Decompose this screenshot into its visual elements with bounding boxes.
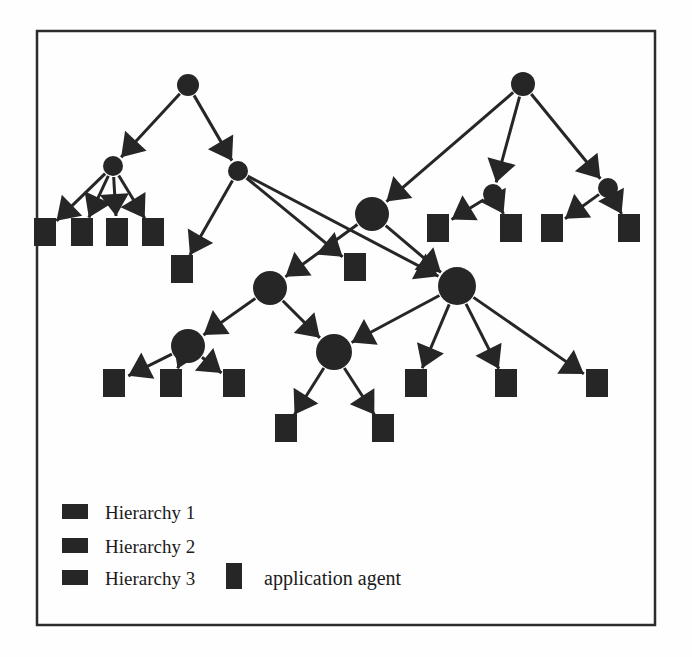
agent-hierarchy-diagram: Hierarchy 1 Hierarchy 2 Hierarchy 3 appl… (0, 0, 692, 657)
arrowhead (386, 176, 412, 202)
application-agent-node (344, 253, 366, 281)
edge (352, 295, 440, 344)
legend-swatch-agent (226, 563, 242, 589)
arrowhead (575, 153, 601, 179)
hierarchy-node-h3 (438, 267, 476, 305)
legend-swatch-h3 (62, 570, 88, 585)
legend-swatch-h2 (62, 538, 88, 553)
legend-label-h1: Hierarchy 1 (105, 502, 195, 523)
figure-root: Hierarchy 1 Hierarchy 2 Hierarchy 3 appl… (0, 0, 692, 657)
application-agent-node (372, 414, 394, 442)
edge (194, 95, 233, 160)
edge (344, 368, 374, 415)
arrowhead (350, 388, 375, 414)
application-agent-node (34, 218, 56, 246)
arrowhead (452, 195, 478, 220)
application-agent-node (586, 369, 608, 397)
application-agent-node (618, 214, 640, 242)
arrowhead (557, 350, 584, 374)
application-agent-node (495, 369, 517, 397)
arrowhead (204, 310, 230, 335)
edge (294, 368, 324, 414)
application-agent-node (142, 218, 164, 246)
legend: Hierarchy 1 Hierarchy 2 Hierarchy 3 appl… (62, 502, 402, 590)
application-agent-node (275, 414, 297, 442)
arrowhead (565, 194, 591, 219)
hierarchy-node-h1 (511, 72, 535, 96)
hierarchy-node-h2 (598, 178, 618, 198)
hierarchy-node-h3 (253, 271, 287, 305)
edge (531, 94, 600, 179)
application-agent-node (541, 214, 563, 242)
edge (283, 301, 320, 338)
legend-label-h3: Hierarchy 3 (105, 568, 195, 589)
nodes-layer (34, 72, 640, 442)
edge (452, 195, 484, 220)
legend-label-h2: Hierarchy 2 (105, 536, 195, 557)
arrowhead (285, 252, 311, 277)
application-agent-node (160, 369, 182, 397)
application-agent-node (405, 369, 427, 397)
edge (248, 176, 439, 279)
legend-label-application-agent: application agent (264, 567, 402, 590)
edge (121, 94, 180, 157)
application-agent-node (500, 214, 522, 242)
hierarchy-node-h2 (103, 156, 123, 176)
arrowhead (188, 229, 213, 256)
legend-swatch-h1 (62, 504, 88, 519)
hierarchy-node-h3 (316, 334, 352, 370)
application-agent-node (106, 218, 128, 246)
edge (204, 298, 256, 335)
hierarchy-node-h3 (171, 329, 205, 363)
hierarchy-node-h3 (355, 197, 389, 231)
hierarchy-node-h2 (483, 184, 503, 204)
application-agent-node (103, 369, 125, 397)
hierarchy-node-h1 (177, 74, 199, 96)
edge (565, 194, 599, 219)
application-agent-node (71, 218, 93, 246)
edge (417, 304, 449, 368)
application-agent-node (427, 214, 449, 242)
arrowhead (294, 388, 319, 415)
application-agent-node (223, 369, 245, 397)
edge (188, 181, 233, 256)
arrowhead (414, 247, 440, 272)
hierarchy-node-h2 (228, 161, 248, 181)
application-agent-node (171, 255, 193, 283)
